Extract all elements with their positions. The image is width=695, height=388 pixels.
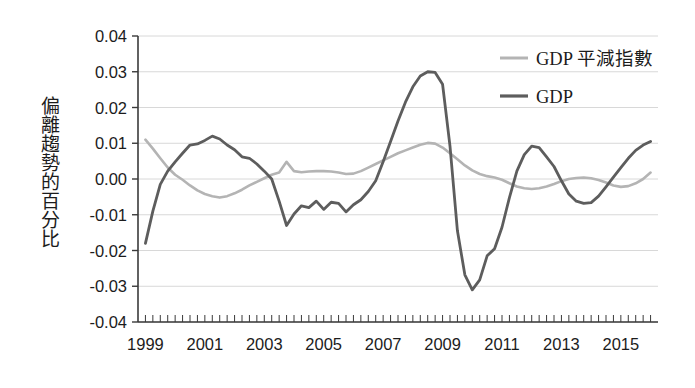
legend-label-gdp: GDP (536, 87, 573, 107)
x-axis-tick-label: 2001 (186, 335, 223, 353)
chart-container: 偏離趨勢的百分比 0.040.030.020.010.00-0.01-0.02-… (0, 0, 695, 388)
y-axis-tick-label: -0.01 (89, 206, 127, 224)
series-line-gdp (145, 72, 650, 290)
legend-label-deflator: GDP 平減指數 (536, 49, 653, 69)
x-axis-tick-label: 2007 (365, 335, 402, 353)
series-lines-group (145, 72, 650, 290)
series-line-deflator (145, 140, 650, 198)
chart-plot-area: 0.040.030.020.010.00-0.01-0.02-0.03-0.04… (0, 0, 695, 388)
x-axis-tick-label: 1999 (127, 335, 164, 353)
y-axis-tick-label: 0.03 (95, 63, 127, 81)
y-axis-tick-label: -0.04 (89, 313, 127, 331)
x-axis-tick-label: 2013 (543, 335, 580, 353)
y-axis-tick-label: -0.03 (89, 277, 127, 295)
y-axis-tick-label: 0.01 (95, 134, 127, 152)
x-axis-tick-label: 2015 (602, 335, 639, 353)
x-axis-ticks-group: 199920012003200520072009201120132015 (127, 335, 639, 353)
y-axis-tick-label: -0.02 (89, 242, 127, 260)
y-axis-tick-label: 0.02 (95, 99, 127, 117)
x-axis-tick-label: 2009 (424, 335, 461, 353)
y-axis-tick-label: 0.00 (95, 170, 127, 188)
y-axis-ticks-group: 0.040.030.020.010.00-0.01-0.02-0.03-0.04 (89, 27, 138, 331)
x-axis-tick-label: 2003 (246, 335, 283, 353)
x-axis-minor-ticks-group (145, 315, 650, 322)
x-axis-tick-label: 2005 (305, 335, 342, 353)
x-axis-tick-label: 2011 (484, 335, 519, 353)
y-axis-tick-label: 0.04 (95, 27, 127, 45)
legend-group: GDP 平減指數GDP (500, 49, 653, 107)
